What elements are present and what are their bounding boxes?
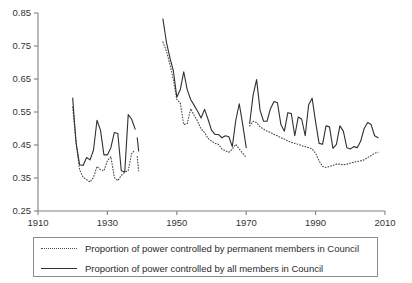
y-tick-label: 0.75 (13, 40, 32, 51)
series-segment (137, 138, 138, 151)
legend-label-permanent: Proportion of power controlled by perman… (85, 243, 359, 254)
series-segment (137, 157, 138, 171)
chart-axes (34, 13, 385, 215)
series-segment (73, 107, 135, 182)
y-tick-label: 0.65 (13, 73, 32, 84)
series-segment (163, 19, 246, 148)
y-tick-label: 0.35 (13, 172, 32, 183)
x-axis-tick-labels: 191019301950197019902010 (27, 217, 395, 228)
x-tick-label: 1930 (97, 217, 118, 228)
y-axis-tick-labels: 0.250.350.450.550.650.750.85 (13, 7, 32, 216)
y-tick-label: 0.85 (13, 7, 32, 18)
y-tick-label: 0.45 (13, 139, 32, 150)
x-tick-label: 1970 (236, 217, 257, 228)
legend-swatch-dotted-line (41, 248, 77, 249)
line-chart: 0.250.350.450.550.650.750.85 19101930195… (0, 0, 412, 232)
series-segment (73, 98, 135, 172)
series-permanent-members (73, 42, 378, 182)
y-tick-label: 0.55 (13, 106, 32, 117)
legend-item-permanent: Proportion of power controlled by perman… (34, 238, 377, 258)
chart-container: 0.250.350.450.550.650.750.85 19101930195… (0, 0, 412, 283)
x-tick-label: 1950 (166, 217, 187, 228)
chart-legend: Proportion of power controlled by perman… (33, 237, 378, 277)
series-all-members (73, 19, 378, 172)
y-axis-ticks (34, 13, 38, 211)
x-tick-label: 1910 (27, 217, 48, 228)
series-segment (250, 80, 378, 149)
legend-swatch-solid-line (41, 268, 77, 269)
x-tick-label: 1990 (305, 217, 326, 228)
chart-series-group (73, 19, 378, 182)
x-axis-ticks (38, 211, 385, 215)
legend-item-all: Proportion of power controlled by all me… (34, 258, 377, 278)
legend-label-all: Proportion of power controlled by all me… (85, 263, 323, 274)
x-tick-label: 2010 (374, 217, 395, 228)
y-tick-label: 0.25 (13, 205, 32, 216)
